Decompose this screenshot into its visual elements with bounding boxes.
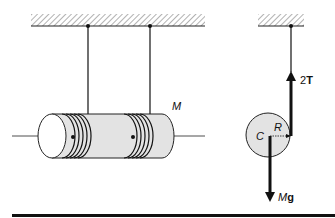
disc bbox=[246, 113, 290, 157]
bottom-rule bbox=[12, 214, 335, 217]
center-label: C bbox=[256, 130, 264, 142]
radius-label: R bbox=[274, 121, 282, 133]
cylinder bbox=[38, 114, 174, 158]
tension-label: 2T bbox=[300, 74, 313, 86]
left-ceiling bbox=[31, 14, 205, 26]
mass-label: M bbox=[172, 100, 182, 112]
right-ceiling bbox=[258, 14, 304, 28]
yo-yo-diagram: M 2T R C Mg bbox=[0, 0, 335, 218]
weight-label: Mg bbox=[278, 191, 294, 203]
